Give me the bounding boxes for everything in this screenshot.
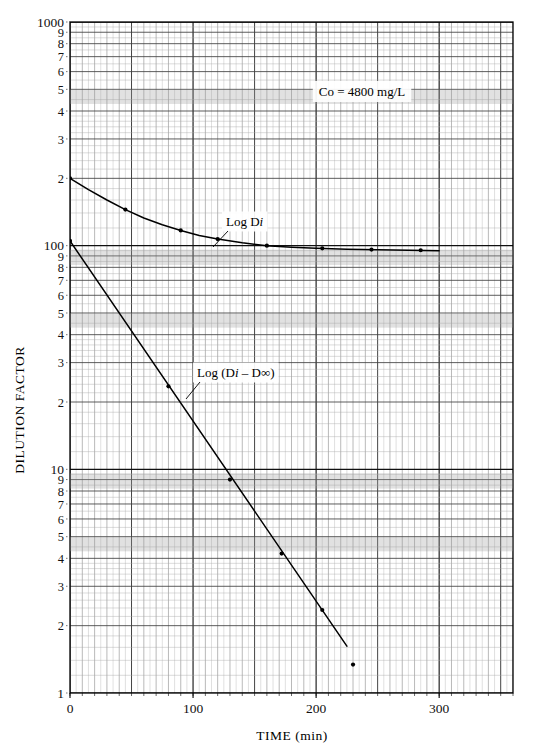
y-tick-label: 6 xyxy=(58,289,64,303)
y-tick-label: 2 xyxy=(58,172,64,186)
y-tick-label: 5 xyxy=(58,530,64,544)
y-tick-label: 5 xyxy=(58,307,64,321)
data-point-marker xyxy=(265,244,269,248)
y-tick-label: 3 xyxy=(58,133,64,147)
y-tick-label: 7 xyxy=(58,274,64,288)
y-tick-label: 3 xyxy=(58,580,64,594)
data-point-marker xyxy=(179,228,183,232)
svg-text:Co = 4800 mg/L: Co = 4800 mg/L xyxy=(319,84,405,99)
y-tick-label: 4 xyxy=(58,105,65,119)
semilog-chart-figure: 1000100101987654329876543298765432 01002… xyxy=(0,0,533,749)
y-tick-label: 5 xyxy=(58,83,64,97)
data-point-marker xyxy=(320,246,324,250)
data-point-marker xyxy=(320,608,324,612)
data-point-marker xyxy=(419,248,423,252)
svg-text:Log Di: Log Di xyxy=(226,214,264,229)
data-point-marker xyxy=(123,207,127,211)
svg-text:Log (Di – D∞): Log (Di – D∞) xyxy=(197,365,275,380)
y-tick-label: 8 xyxy=(58,261,64,275)
chart-svg: 1000100101987654329876543298765432 01002… xyxy=(0,0,533,749)
y-tick-label: 2 xyxy=(58,619,64,633)
x-tick-label: 100 xyxy=(183,701,204,716)
concentration-annotation: Co = 4800 mg/L xyxy=(313,81,411,102)
y-tick-label: 3 xyxy=(58,356,64,370)
x-tick-label: 200 xyxy=(306,701,327,716)
y-tick-label: 4 xyxy=(58,328,65,342)
y-tick-label: 7 xyxy=(58,50,64,64)
y-tick-label: 8 xyxy=(58,485,64,499)
y-tick-label: 8 xyxy=(58,37,64,51)
y-tick-label: 6 xyxy=(58,513,64,527)
y-tick-label: 1 xyxy=(57,686,64,701)
data-point-marker xyxy=(166,384,170,388)
y-tick-label: 4 xyxy=(58,552,65,566)
data-point-marker xyxy=(369,247,373,251)
y-axis-title: DILUTION FACTOR xyxy=(12,346,27,473)
data-point-marker xyxy=(351,662,355,666)
y-tick-label: 7 xyxy=(58,498,64,512)
x-tick-label: 300 xyxy=(429,701,450,716)
x-axis-title: TIME (min) xyxy=(256,728,327,743)
data-point-marker xyxy=(228,477,232,481)
data-point-marker xyxy=(280,551,284,555)
y-tick-label: 2 xyxy=(58,396,64,410)
x-tick-label: 0 xyxy=(67,701,74,716)
y-tick-label: 6 xyxy=(58,65,64,79)
